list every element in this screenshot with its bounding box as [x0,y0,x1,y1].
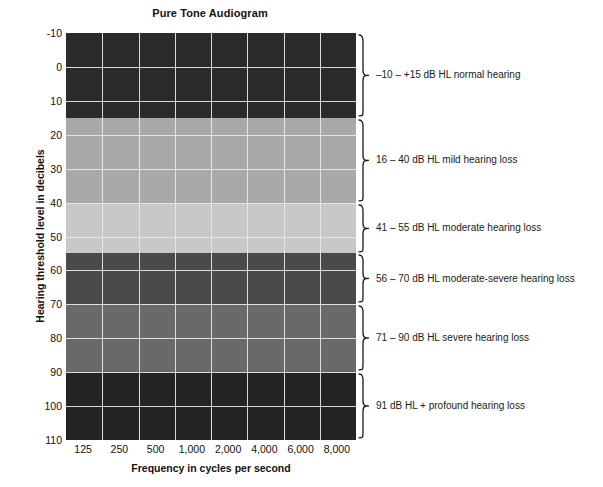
curly-brace-icon [357,253,371,304]
y-tick-label: 90 [22,366,62,378]
chart-title: Pure Tone Audiogram [0,7,420,19]
y-tick-label: -10 [22,27,62,39]
y-tick-label: 10 [22,95,62,107]
annotation-label: 41 – 55 dB HL moderate hearing loss [371,222,541,235]
x-axis-ticks: 1252505001,0002,0004,0006,0008,000 [66,443,356,459]
y-tick-label: 0 [22,61,62,73]
annotation-label: 16 – 40 dB HL mild hearing loss [371,154,517,167]
gridline-vertical [320,33,321,440]
gridline-vertical [139,33,140,440]
gridline-vertical [175,33,176,440]
curly-brace-icon [357,33,371,118]
gridline-vertical [211,33,212,440]
y-tick-label: 30 [22,163,62,175]
y-tick-label: 100 [22,400,62,412]
curly-brace-icon [357,203,371,254]
gridline-vertical [247,33,248,440]
annotation-label: –10 – +15 dB HL normal hearing [371,69,520,82]
x-axis-title: Frequency in cycles per second [66,462,356,474]
annotation-moderate-severe-hearing-loss: 56 – 70 dB HL moderate-severe hearing lo… [357,253,603,304]
y-tick-label: 40 [22,197,62,209]
annotation-normal-hearing: –10 – +15 dB HL normal hearing [357,33,603,118]
x-tick-label: 8,000 [307,443,367,455]
plot-area [66,33,356,440]
y-tick-label: 80 [22,332,62,344]
annotation-label: 91 dB HL + profound hearing loss [371,400,525,413]
curly-brace-icon [357,118,371,203]
y-tick-label: 20 [22,129,62,141]
annotation-profound-hearing-loss: 91 dB HL + profound hearing loss [357,372,603,440]
band-annotations: –10 – +15 dB HL normal hearing16 – 40 dB… [357,33,603,440]
audiogram-chart: Pure Tone Audiogram Hearing threshold le… [0,0,603,487]
annotation-label: 71 – 90 dB HL severe hearing loss [371,332,529,345]
annotation-label: 56 – 70 dB HL moderate-severe hearing lo… [371,273,575,286]
y-tick-label: 60 [22,264,62,276]
annotation-mild-hearing-loss: 16 – 40 dB HL mild hearing loss [357,118,603,203]
gridline-vertical [284,33,285,440]
y-tick-label: 70 [22,298,62,310]
y-axis-ticks: -100102030405060708090100110 [18,33,62,440]
curly-brace-icon [357,372,371,440]
annotation-moderate-hearing-loss: 41 – 55 dB HL moderate hearing loss [357,203,603,254]
curly-brace-icon [357,304,371,372]
gridline-vertical [102,33,103,440]
annotation-severe-hearing-loss: 71 – 90 dB HL severe hearing loss [357,304,603,372]
y-tick-label: 50 [22,231,62,243]
